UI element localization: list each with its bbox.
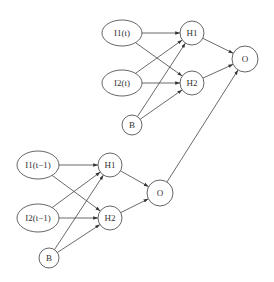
node-label: O: [157, 188, 164, 198]
node-p_I2: I2(t−1): [17, 204, 59, 232]
nodes: I1(t)I2(t)BH1H2OI1(t−1)I2(t−1)BH1H2O: [17, 20, 258, 268]
node-label: I2(t): [114, 78, 130, 88]
node-p_I1: I1(t−1): [17, 151, 59, 179]
node-p_H2: H2: [98, 206, 122, 230]
node-label: I1(t−1): [25, 160, 51, 170]
edge-t_I2-to-t_H1: [135, 40, 182, 73]
edge-t_B-to-t_H2: [140, 90, 182, 119]
node-p_B: B: [39, 248, 59, 268]
recurrent-network-diagram: I1(t)I2(t)BH1H2OI1(t−1)I2(t−1)BH1H2O: [0, 0, 274, 282]
node-label: B: [46, 253, 52, 263]
node-label: I1(t): [114, 28, 130, 38]
node-t_O: O: [232, 46, 258, 72]
node-t_B: B: [122, 115, 142, 135]
edge-p_I1-to-p_H2: [52, 175, 100, 211]
node-t_I2: I2(t): [102, 70, 142, 96]
edge-p_I2-to-p_H1: [52, 172, 100, 208]
edges: [52, 33, 238, 253]
node-label: O: [242, 54, 249, 64]
node-label: B: [129, 120, 135, 130]
node-t_H2: H2: [180, 71, 204, 95]
node-label: H1: [105, 160, 116, 170]
edge-t_B-to-t_H1: [137, 43, 185, 117]
node-label: I2(t−1): [25, 213, 51, 223]
node-label: H1: [187, 28, 198, 38]
node-t_I1: I1(t): [102, 20, 142, 46]
edge-t_H2-to-t_O: [203, 64, 233, 78]
node-label: H2: [105, 213, 116, 223]
node-p_H1: H1: [98, 153, 122, 177]
edge-t_H1-to-t_O: [203, 38, 234, 53]
node-t_H1: H1: [180, 21, 204, 45]
edge-p_H2-to-p_O: [121, 199, 149, 213]
edge-p_B-to-p_H2: [57, 225, 100, 253]
edge-p_H1-to-p_O: [120, 171, 148, 187]
node-p_O: O: [147, 180, 173, 206]
node-label: H2: [187, 78, 198, 88]
